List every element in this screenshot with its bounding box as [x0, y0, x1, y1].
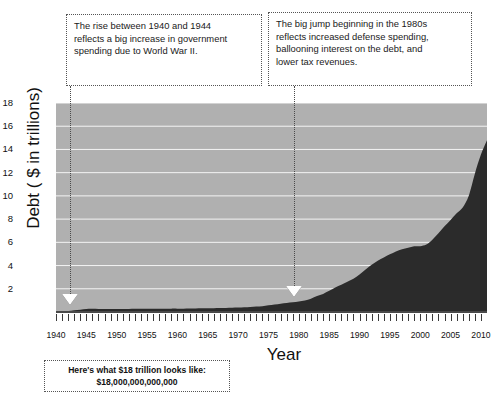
x-axis-tick [305, 314, 306, 321]
x-axis-tick [165, 314, 166, 321]
caption-box: Here's what $18 trillion looks like: $18… [44, 360, 230, 392]
x-axis-tick [438, 314, 439, 321]
x-axis-tick-label: 1975 [251, 330, 285, 340]
x-axis-tick [147, 314, 148, 321]
x-axis-tick [414, 314, 415, 321]
x-axis-tick [469, 314, 470, 321]
x-axis-tick [177, 314, 178, 321]
annotation-eighties-line-4: lower tax revenues. [276, 56, 464, 69]
marker-triangle-wwii [62, 294, 78, 305]
annotation-wwii-line-3: spending due to World War II. [74, 45, 254, 58]
x-axis-tick [323, 314, 324, 321]
x-axis-tick [317, 314, 318, 321]
x-axis-tick [481, 314, 482, 321]
x-axis-tick-label: 1945 [69, 330, 103, 340]
x-axis-tick-label: 2005 [434, 330, 468, 340]
x-axis-tick [287, 314, 288, 321]
x-axis-tick [171, 314, 172, 321]
x-axis-tick [432, 314, 433, 321]
debt-area-series [56, 140, 487, 312]
x-axis-tick [244, 314, 245, 321]
x-axis-tick [250, 314, 251, 321]
y-axis-tick-label: 8 [0, 213, 13, 224]
x-axis-tick [98, 314, 99, 321]
x-axis-tick [293, 314, 294, 321]
x-axis-tick [80, 314, 81, 321]
x-axis-tick [311, 314, 312, 321]
y-axis-tick-label: 4 [0, 260, 13, 271]
x-axis-tick [347, 314, 348, 321]
annotation-eighties-line-1: The big jump beginning in the 1980s [276, 18, 464, 31]
plot-area [56, 103, 487, 312]
x-axis-tick [268, 314, 269, 321]
connector-line-wwii [70, 86, 71, 298]
x-axis-tick-label: 1995 [373, 330, 407, 340]
x-axis-tick [220, 314, 221, 321]
x-axis-ticks [56, 314, 487, 321]
annotation-box-eighties: The big jump beginning in the 1980s refl… [268, 12, 472, 86]
x-axis-tick [117, 314, 118, 321]
x-axis-tick-label: 1955 [130, 330, 164, 340]
area-chart-svg [56, 103, 487, 312]
annotation-eighties-line-2: reflects increased defense spending, [276, 31, 464, 44]
caption-line-2: $18,000,000,000,000 [45, 377, 229, 389]
x-axis-tick [420, 314, 421, 321]
x-axis-tick [190, 314, 191, 321]
y-axis-tick-label: 18 [0, 97, 13, 108]
x-axis-title-text: Year [267, 345, 301, 364]
x-axis-tick [56, 314, 57, 321]
annotation-eighties-line-3: ballooning interest on the debt, and [276, 43, 464, 56]
x-axis-tick-label: 1965 [191, 330, 225, 340]
x-axis-tick [275, 314, 276, 321]
x-axis-tick [475, 314, 476, 321]
x-axis-tick [360, 314, 361, 321]
x-axis-tick-label: 2000 [403, 330, 437, 340]
x-axis-tick [299, 314, 300, 321]
caption-line-1: Here's what $18 trillion looks like: [45, 365, 229, 377]
x-axis-tick [123, 314, 124, 321]
x-axis-tick [457, 314, 458, 321]
x-axis-tick [68, 314, 69, 321]
x-axis-tick [256, 314, 257, 321]
x-axis-tick [372, 314, 373, 321]
x-axis-tick [353, 314, 354, 321]
x-axis-tick [214, 314, 215, 321]
x-axis-tick [378, 314, 379, 321]
annotation-wwii-line-2: reflects a big increase in government [74, 33, 254, 46]
x-axis-tick-label: 1970 [221, 330, 255, 340]
y-axis-tick-label: 10 [0, 190, 13, 201]
y-axis-tick-label: 16 [0, 120, 13, 131]
annotation-box-wwii: The rise between 1940 and 1944 reflects … [66, 14, 262, 86]
x-axis-baseline [56, 311, 487, 313]
x-axis-tick-label: 1950 [100, 330, 134, 340]
x-axis-tick [232, 314, 233, 321]
x-axis-tick [463, 314, 464, 321]
chart-figure: The rise between 1940 and 1944 reflects … [0, 0, 504, 405]
x-axis-tick [62, 314, 63, 321]
x-axis-tick [238, 314, 239, 321]
y-axis-tick-label: 2 [0, 283, 13, 294]
x-axis-tick [402, 314, 403, 321]
x-axis-tick [366, 314, 367, 321]
x-axis-tick [111, 314, 112, 321]
x-axis-tick [105, 314, 106, 321]
x-axis-tick [196, 314, 197, 321]
x-axis-tick [426, 314, 427, 321]
x-axis-tick-label: 1960 [160, 330, 194, 340]
x-axis-tick [262, 314, 263, 321]
annotation-wwii-line-1: The rise between 1940 and 1944 [74, 20, 254, 33]
y-axis-tick-label: 6 [0, 236, 13, 247]
x-axis-tick [202, 314, 203, 321]
x-axis-tick [396, 314, 397, 321]
x-axis-tick [408, 314, 409, 321]
x-axis-tick [183, 314, 184, 321]
marker-triangle-eighties [286, 286, 302, 297]
x-axis-tick [341, 314, 342, 321]
x-axis-tick [208, 314, 209, 321]
x-axis-tick-label: 1990 [343, 330, 377, 340]
x-axis-tick-label: 1985 [312, 330, 346, 340]
x-axis-tick [141, 314, 142, 321]
x-axis-tick [129, 314, 130, 321]
x-axis-tick [281, 314, 282, 321]
y-axis-tick-label: 14 [0, 143, 13, 154]
